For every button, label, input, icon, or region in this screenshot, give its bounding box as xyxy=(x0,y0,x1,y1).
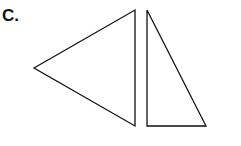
triangles-figure xyxy=(0,0,241,146)
triangle-left xyxy=(34,10,135,126)
triangle-right xyxy=(147,10,206,126)
